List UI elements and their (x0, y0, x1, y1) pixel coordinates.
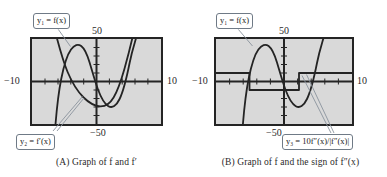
y-bottom-label-b: −50 (266, 127, 282, 138)
y-bottom-label-a: −50 (90, 127, 106, 138)
figure-container: 50 −50 −10 10 y₁ = f(x) y₂ = f′(x) (A) G… (0, 0, 387, 177)
x-right-label-b: 10 (357, 75, 367, 86)
callout-y3-b: y₃ = 10f″(x)/|f″(x)| (282, 134, 353, 150)
x-right-label-a: 10 (167, 75, 177, 86)
panel-a: 50 −50 −10 10 y₁ = f(x) y₂ = f′(x) (A) G… (0, 0, 193, 177)
callout-y1-a: y₁ = f(x) (33, 13, 70, 29)
callout-y2-a: y₂ = f′(x) (16, 134, 55, 150)
panel-b: 50 −50 −10 10 y₁ = f(x) y₃ = 10f″(x)/|f″… (194, 0, 387, 177)
leader-y1-a (58, 29, 71, 47)
leader-y3-b-2 (302, 76, 331, 134)
caption-b: (B) Graph of f and the sign of f″(x) (194, 157, 387, 167)
y-top-label-b: 50 (279, 25, 289, 36)
callout-y1-b: y₁ = f(x) (216, 13, 253, 29)
leader-y3-b (307, 75, 335, 134)
caption-a: (A) Graph of f and f′ (0, 157, 193, 167)
leader-y2-a-2 (57, 98, 84, 131)
x-left-label-a: −10 (4, 75, 20, 86)
y-top-label-a: 50 (92, 25, 102, 36)
leader-y1-b (238, 29, 253, 46)
x-left-label-b: −10 (192, 75, 208, 86)
